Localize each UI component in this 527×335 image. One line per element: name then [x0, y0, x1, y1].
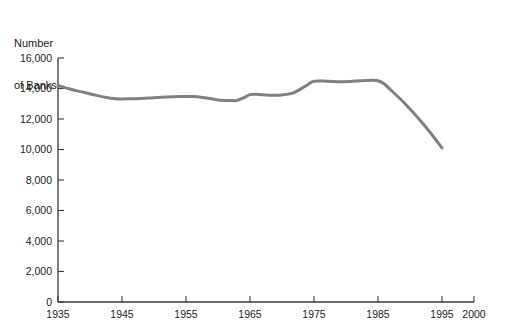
x-tick-label: 1975: [302, 308, 326, 320]
x-tick-label: 2000: [462, 308, 486, 320]
x-tick-label: 1995: [430, 308, 454, 320]
y-tick-label: 8,000: [26, 174, 52, 186]
x-axis-tick-marks: [58, 296, 474, 302]
x-tick-label: 1945: [110, 308, 134, 320]
y-axis-tick-labels: 02,0004,0006,0008,00010,00012,00014,0001…: [20, 52, 52, 308]
x-tick-label: 1935: [46, 308, 70, 320]
y-tick-label: 0: [46, 296, 52, 308]
data-series-line: [58, 80, 442, 148]
chart-plot-area: 02,0004,0006,0008,00010,00012,00014,0001…: [0, 0, 527, 335]
x-tick-label: 1965: [238, 308, 262, 320]
y-tick-label: 12,000: [20, 113, 52, 125]
y-tick-label: 4,000: [26, 235, 52, 247]
x-tick-label: 1955: [174, 308, 198, 320]
x-tick-label: 1985: [366, 308, 390, 320]
y-axis-tick-marks: [58, 58, 64, 302]
y-tick-label: 14,000: [20, 82, 52, 94]
y-tick-label: 6,000: [26, 204, 52, 216]
y-tick-label: 2,000: [26, 265, 52, 277]
y-tick-label: 16,000: [20, 52, 52, 64]
x-axis-tick-labels: 19351945195519651975198519952000: [46, 308, 486, 320]
y-tick-label: 10,000: [20, 143, 52, 155]
bank-count-line-chart: Number of Banks 02,0004,0006,0008,00010,…: [0, 0, 527, 335]
